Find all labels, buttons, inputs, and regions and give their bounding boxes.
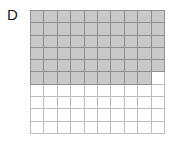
grid-cell-shaded bbox=[84, 47, 97, 59]
grid-cell-shaded bbox=[31, 23, 44, 35]
grid-cell-empty bbox=[111, 84, 124, 96]
grid-cell-empty bbox=[71, 121, 84, 133]
grid-cell-empty bbox=[44, 97, 57, 109]
grid-cell-shaded bbox=[71, 35, 84, 47]
grid-row bbox=[31, 121, 165, 133]
grid-cell-empty bbox=[111, 97, 124, 109]
grid-cell-shaded bbox=[44, 60, 57, 72]
grid-cell-shaded bbox=[57, 11, 70, 23]
grid-cell-shaded bbox=[31, 35, 44, 47]
grid-cell-empty bbox=[138, 121, 151, 133]
grid-cell-empty bbox=[138, 109, 151, 121]
grid-cell-shaded bbox=[57, 47, 70, 59]
grid-cell-shaded bbox=[124, 11, 137, 23]
grid-cell-shaded bbox=[31, 11, 44, 23]
grid-cell-shaded bbox=[71, 60, 84, 72]
grid-cell-shaded bbox=[31, 72, 44, 84]
grid-cell-empty bbox=[151, 84, 164, 96]
grid-cell-shaded bbox=[71, 47, 84, 59]
grid-cell-shaded bbox=[111, 11, 124, 23]
grid-cell-empty bbox=[44, 84, 57, 96]
grid-cell-empty bbox=[124, 84, 137, 96]
grid-cell-empty bbox=[97, 121, 110, 133]
grid-cell-shaded bbox=[31, 47, 44, 59]
grid-cell-shaded bbox=[138, 35, 151, 47]
grid-cell-shaded bbox=[71, 72, 84, 84]
grid-cell-shaded bbox=[71, 23, 84, 35]
grid-row bbox=[31, 109, 165, 121]
hundredths-grid-figure: D bbox=[0, 0, 173, 142]
grid-cell-shaded bbox=[84, 23, 97, 35]
grid-cell-empty bbox=[111, 121, 124, 133]
grid-cell-shaded bbox=[138, 72, 151, 84]
grid-cell-shaded bbox=[151, 60, 164, 72]
grid-cell-shaded bbox=[44, 72, 57, 84]
grid-cell-shaded bbox=[97, 47, 110, 59]
grid-cell-shaded bbox=[124, 47, 137, 59]
grid-cell-empty bbox=[97, 109, 110, 121]
grid-cell-shaded bbox=[138, 60, 151, 72]
grid-cell-shaded bbox=[84, 11, 97, 23]
grid-cell-empty bbox=[84, 84, 97, 96]
grid-cell-shaded bbox=[44, 11, 57, 23]
grid-cell-empty bbox=[124, 97, 137, 109]
grid-cell-shaded bbox=[111, 35, 124, 47]
grid-cell-shaded bbox=[111, 23, 124, 35]
grid-cell-empty bbox=[44, 121, 57, 133]
grid-cell-shaded bbox=[31, 60, 44, 72]
grid-cell-shaded bbox=[57, 72, 70, 84]
grid-cell-empty bbox=[138, 97, 151, 109]
grid-cell-shaded bbox=[97, 72, 110, 84]
grid-cell-empty bbox=[71, 109, 84, 121]
grid-cell-empty bbox=[151, 109, 164, 121]
grid-cell-shaded bbox=[151, 11, 164, 23]
grid-cell-shaded bbox=[111, 47, 124, 59]
grid-row bbox=[31, 47, 165, 59]
grid-cell-shaded bbox=[124, 35, 137, 47]
grid-cell-shaded bbox=[138, 47, 151, 59]
grid-cell-empty bbox=[57, 109, 70, 121]
grid-cell-empty bbox=[124, 109, 137, 121]
grid-row bbox=[31, 11, 165, 23]
grid-cell-empty bbox=[84, 97, 97, 109]
grid-cell-shaded bbox=[151, 35, 164, 47]
hundredths-grid bbox=[30, 10, 165, 134]
grid-cell-shaded bbox=[151, 23, 164, 35]
grid-cell-empty bbox=[84, 109, 97, 121]
grid-cell-empty bbox=[57, 97, 70, 109]
grid-cell-shaded bbox=[111, 72, 124, 84]
grid-row bbox=[31, 97, 165, 109]
grid-cell-shaded bbox=[97, 11, 110, 23]
grid-cell-empty bbox=[97, 84, 110, 96]
grid-cell-shaded bbox=[57, 35, 70, 47]
grid-body bbox=[31, 11, 165, 134]
grid-cell-shaded bbox=[151, 47, 164, 59]
grid-row bbox=[31, 23, 165, 35]
grid-cell-empty bbox=[31, 84, 44, 96]
grid-cell-shaded bbox=[44, 23, 57, 35]
grid-cell-shaded bbox=[138, 11, 151, 23]
grid-container bbox=[30, 10, 165, 134]
grid-cell-empty bbox=[111, 109, 124, 121]
grid-cell-empty bbox=[138, 84, 151, 96]
grid-cell-shaded bbox=[97, 60, 110, 72]
grid-cell-empty bbox=[44, 109, 57, 121]
grid-cell-empty bbox=[151, 121, 164, 133]
grid-cell-shaded bbox=[97, 35, 110, 47]
grid-cell-shaded bbox=[111, 60, 124, 72]
grid-cell-shaded bbox=[124, 60, 137, 72]
grid-cell-empty bbox=[57, 121, 70, 133]
grid-cell-empty bbox=[31, 109, 44, 121]
grid-cell-shaded bbox=[57, 60, 70, 72]
grid-row bbox=[31, 35, 165, 47]
grid-cell-shaded bbox=[138, 23, 151, 35]
grid-cell-empty bbox=[84, 121, 97, 133]
grid-cell-empty bbox=[97, 97, 110, 109]
grid-cell-empty bbox=[31, 121, 44, 133]
grid-cell-empty bbox=[71, 97, 84, 109]
grid-row bbox=[31, 84, 165, 96]
grid-cell-empty bbox=[151, 97, 164, 109]
grid-row bbox=[31, 72, 165, 84]
grid-cell-shaded bbox=[124, 72, 137, 84]
grid-cell-shaded bbox=[44, 35, 57, 47]
